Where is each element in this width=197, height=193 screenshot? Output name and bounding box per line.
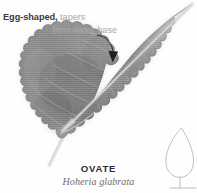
leaf-shape-figure: Egg-shaped, tapers from wider base OVATE… (0, 0, 197, 193)
annotation-callout: Egg-shaped, tapers from wider base (3, 11, 123, 36)
annotation-emphasis: Egg-shaped, (3, 12, 58, 22)
leaf-shape-name: OVATE (0, 163, 197, 175)
callout-arrow-icon (97, 35, 118, 62)
species-name: Hoheria glabrata (0, 175, 197, 188)
annotation-rest: tapers (58, 12, 86, 22)
annotation-line-1: Egg-shaped, tapers (3, 11, 123, 24)
caption-block: OVATE Hoheria glabrata (0, 163, 197, 188)
annotation-line-2: from wider base (3, 24, 123, 37)
